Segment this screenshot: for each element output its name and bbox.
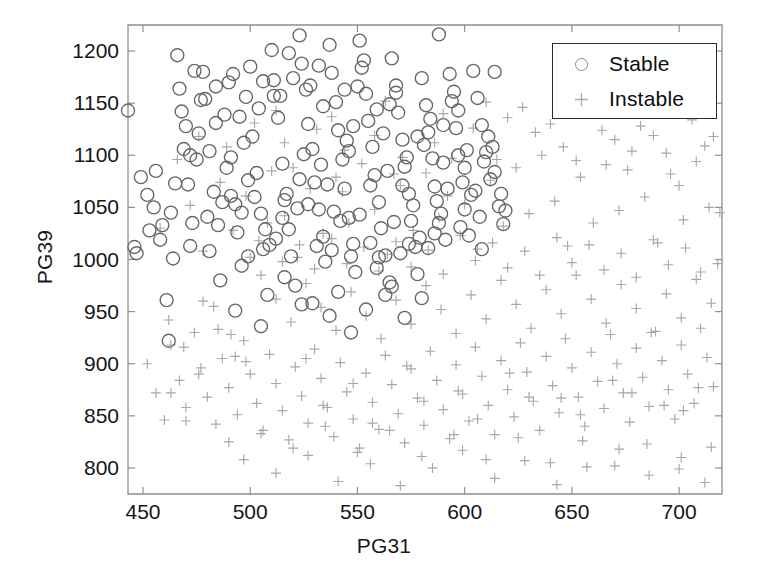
legend: Stable Instable: [552, 43, 717, 119]
legend-label-instable: Instable: [609, 87, 684, 111]
y-axis-title: PG39: [33, 172, 57, 342]
y-tick-label: 850: [84, 404, 119, 428]
x-axis-title: PG31: [0, 534, 768, 558]
legend-label-stable: Stable: [609, 52, 670, 76]
series-stable-points: [122, 28, 512, 347]
scatter-plot-figure: 80085090095010001050110011501200 4505005…: [0, 0, 768, 580]
x-tick-label: 600: [447, 500, 482, 524]
x-tick-label: 450: [125, 500, 160, 524]
y-tick-label: 800: [84, 456, 119, 480]
y-tick-label: 1150: [74, 91, 119, 115]
plus-icon: [553, 92, 609, 107]
x-tick-label: 650: [554, 500, 589, 524]
x-tick-label: 500: [233, 500, 268, 524]
y-tick-label: 950: [84, 300, 119, 324]
x-tick-label: 700: [662, 500, 697, 524]
x-tick-label: 550: [340, 500, 375, 524]
y-tick-label: 900: [84, 352, 119, 376]
legend-item-stable: Stable: [553, 47, 716, 81]
legend-item-instable: Instable: [553, 82, 716, 116]
y-tick-label: 1100: [74, 143, 119, 167]
series-instable-points: [142, 96, 725, 491]
y-tick-label: 1050: [72, 195, 119, 219]
circle-icon: [553, 58, 609, 71]
y-tick-label: 1000: [72, 248, 119, 272]
y-tick-label-group: 80085090095010001050110011501200: [0, 0, 119, 580]
y-tick-label: 1200: [72, 39, 119, 63]
